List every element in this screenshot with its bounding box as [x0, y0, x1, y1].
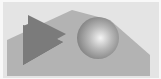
- scene: [0, 0, 161, 79]
- shaded-sphere: [77, 17, 119, 59]
